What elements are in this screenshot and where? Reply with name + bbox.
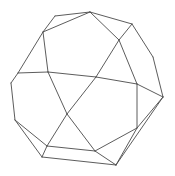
edge-O-K	[137, 97, 163, 128]
edge-I-N	[67, 77, 96, 114]
edge-E-J	[119, 40, 137, 84]
edge-F-K	[153, 57, 163, 97]
edge-C-G	[18, 32, 43, 73]
edge-H-N	[48, 72, 67, 114]
edge-G-L	[11, 73, 18, 83]
edge-D-F	[132, 24, 153, 57]
edge-C-H	[43, 32, 48, 72]
polyhedron-diagram	[0, 0, 175, 176]
polyhedron-wireframe	[0, 0, 175, 176]
edge-G-H	[18, 72, 48, 73]
edge-K-S	[116, 97, 163, 165]
edge-L-M	[11, 83, 15, 120]
edge-P-R	[42, 146, 47, 157]
edge-J-K	[137, 84, 163, 97]
edge-E-I	[96, 40, 119, 77]
edge-N-Q	[67, 114, 95, 151]
edge-N-P	[47, 114, 67, 146]
edge-P-Q	[47, 146, 95, 151]
edge-H-I	[48, 72, 96, 77]
edge-I-J	[96, 77, 137, 84]
edge-D-E	[119, 24, 132, 40]
edge-R-S	[42, 157, 116, 165]
